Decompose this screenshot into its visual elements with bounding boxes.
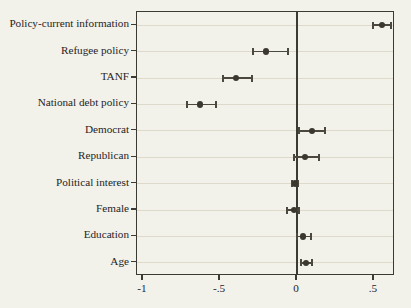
- confidence-interval-cap: [298, 207, 299, 214]
- point-estimate-marker: [233, 75, 240, 82]
- y-axis-tick-label: Republican: [78, 150, 129, 161]
- gridline: [137, 104, 393, 105]
- confidence-interval-cap: [311, 259, 312, 266]
- confidence-interval-cap: [318, 154, 319, 161]
- confidence-interval-cap: [252, 48, 253, 55]
- confidence-interval-cap: [286, 207, 287, 214]
- x-axis-tick: [295, 275, 296, 280]
- x-axis-tick-label: -1: [137, 283, 146, 294]
- confidence-interval-bar: [253, 51, 288, 53]
- y-axis-tick-label: Age: [110, 256, 129, 267]
- point-estimate-marker: [302, 154, 309, 161]
- y-axis-tick-label: National debt policy: [38, 97, 129, 108]
- coefficient-plot-figure: Policy-current informationRefugee policy…: [0, 0, 411, 308]
- confidence-interval-cap: [287, 48, 288, 55]
- point-estimate-marker: [309, 128, 316, 135]
- x-axis-tick-label: .5: [369, 283, 377, 294]
- gridline: [137, 157, 393, 158]
- gridline: [137, 183, 393, 184]
- plot-area: [136, 11, 394, 275]
- y-axis-tick-label: Education: [84, 229, 129, 240]
- x-axis-tick-label: 0: [293, 283, 299, 294]
- confidence-interval-cap: [186, 101, 187, 108]
- x-axis-tick-label: -.5: [213, 283, 225, 294]
- point-estimate-marker: [292, 180, 299, 187]
- confidence-interval-cap: [293, 154, 294, 161]
- confidence-interval-cap: [372, 22, 373, 29]
- gridline: [137, 210, 393, 211]
- gridline: [137, 130, 393, 131]
- point-estimate-marker: [300, 233, 307, 240]
- x-axis-tick: [218, 275, 219, 280]
- y-axis-tick-label: Policy-current information: [9, 18, 129, 29]
- gridline: [137, 25, 393, 26]
- y-axis-tick-label: Political interest: [56, 177, 129, 188]
- x-axis-tick: [372, 275, 373, 280]
- gridline: [137, 78, 393, 79]
- y-axis-tick-label: TANF: [101, 71, 129, 82]
- confidence-interval-cap: [215, 101, 216, 108]
- confidence-interval-cap: [222, 75, 223, 82]
- gridline: [137, 262, 393, 263]
- confidence-interval-cap: [324, 127, 325, 134]
- confidence-interval-cap: [300, 259, 301, 266]
- y-axis-tick-label: Female: [96, 203, 129, 214]
- y-axis-tick-label: Refugee policy: [61, 45, 129, 56]
- confidence-interval-cap: [298, 127, 299, 134]
- confidence-interval-cap: [296, 233, 297, 240]
- point-estimate-marker: [197, 101, 204, 108]
- y-axis-tick-label: Democrat: [85, 124, 129, 135]
- point-estimate-marker: [379, 22, 386, 29]
- confidence-interval-cap: [310, 233, 311, 240]
- gridline: [137, 236, 393, 237]
- point-estimate-marker: [303, 260, 310, 267]
- confidence-interval-cap: [251, 75, 252, 82]
- point-estimate-marker: [263, 48, 270, 55]
- x-axis-tick: [141, 275, 142, 280]
- confidence-interval-cap: [390, 22, 391, 29]
